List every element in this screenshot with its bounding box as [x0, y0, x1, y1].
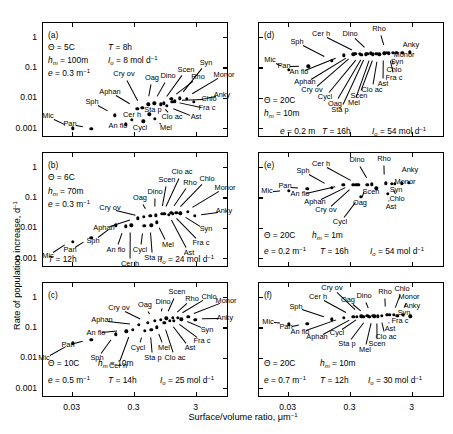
panel-param-text: Θ = 20C [264, 95, 295, 105]
panel-param-text: T = 16h [322, 126, 351, 136]
data-point [149, 214, 152, 217]
point-label: Chlo [389, 195, 404, 202]
x-tick-mark [72, 283, 73, 287]
leader-line [388, 322, 389, 323]
point-label: Oag [133, 194, 147, 201]
y-tick-mark [259, 167, 263, 168]
point-label: Cer h [121, 260, 139, 267]
point-label: Oag [341, 296, 355, 303]
panel-param-text: Θ = 5C [48, 42, 75, 52]
y-tick-mark [259, 358, 263, 359]
point-label: Anky [403, 41, 419, 48]
point-label: Cycl [333, 218, 347, 225]
x-tick-mark [288, 392, 289, 396]
x-tick-mark [72, 132, 73, 136]
data-point [370, 182, 373, 185]
point-label: Mel [158, 344, 170, 351]
data-point [150, 224, 153, 227]
panel-param-text: T = 8h [108, 42, 132, 52]
point-label: Clo ac [162, 113, 183, 120]
point-label: Cycl [330, 329, 344, 336]
y-tick-label: 0.001 [2, 253, 37, 263]
point-label: Syn [391, 58, 404, 65]
y-tick-mark [223, 67, 227, 68]
point-label: Pan [61, 341, 74, 348]
data-point [187, 315, 190, 318]
point-label: Mic [261, 187, 273, 194]
data-point [354, 52, 357, 55]
panel-id-d: (d) [264, 30, 274, 40]
x-tick-mark [412, 392, 413, 396]
point-label: Scen [369, 340, 386, 347]
point-label: Sph [289, 303, 302, 310]
x-tick-label: 0.03 [63, 402, 80, 412]
panel-param-text: Io = 25 mol d−1 [160, 375, 214, 386]
leader-line [159, 123, 161, 125]
data-point [71, 240, 74, 243]
data-point [124, 225, 127, 228]
point-label: Oag [353, 199, 367, 206]
data-point [362, 315, 365, 318]
point-label: Dino [342, 30, 357, 37]
panel-param-text: Θ = 20C [264, 230, 295, 240]
y-tick-label: 0.1 [2, 322, 37, 332]
y-axis-label: Rate of population increase, d−1 [12, 201, 22, 330]
y-tick-mark [223, 228, 227, 229]
y-tick-mark [259, 98, 263, 99]
y-tick-label: 1 [2, 32, 37, 42]
point-label: Sta p [144, 354, 161, 361]
point-label: Pan [63, 120, 76, 127]
point-label: Sta p [331, 106, 348, 113]
point-label: Anky [217, 314, 233, 321]
x-tick-mark [350, 283, 351, 287]
point-label: Anky [402, 166, 418, 173]
panel-id-b: (b) [48, 160, 58, 170]
point-label: Mic [264, 56, 276, 63]
x-tick-mark [196, 283, 197, 287]
data-point [360, 53, 363, 56]
panel-param-text: hm = 10m [264, 108, 300, 119]
point-label: Sta p [338, 340, 355, 347]
y-tick-mark [223, 358, 227, 359]
point-label: Anky [214, 91, 230, 98]
point-label: Ast [386, 203, 397, 210]
leader-line [130, 232, 131, 258]
data-point [384, 182, 387, 185]
point-label: Cry ov [108, 304, 129, 311]
point-label: Sph [86, 237, 99, 244]
point-label: Sph [296, 167, 309, 174]
panel-id-e: (e) [264, 160, 274, 170]
y-tick-label: 0.001 [2, 383, 37, 393]
data-point [387, 52, 390, 55]
x-tick-mark [72, 153, 73, 157]
y-tick-mark [223, 197, 227, 198]
data-point [143, 224, 146, 227]
data-point [114, 333, 117, 336]
panel-id-f: (f) [264, 290, 272, 300]
data-point [90, 338, 93, 341]
point-label: Rho [372, 25, 386, 32]
data-point [173, 100, 176, 103]
point-label: Monor [395, 178, 416, 185]
point-label: Mel [162, 241, 174, 248]
point-label: Oag [138, 301, 152, 308]
panel-param-text: T = 14h [108, 375, 137, 385]
x-tick-mark [196, 392, 197, 396]
point-label: Ast [185, 344, 196, 351]
point-label: Sta p [144, 106, 161, 113]
leader-line [291, 187, 298, 189]
point-label: Syn [398, 309, 411, 316]
point-label: Rho [378, 288, 392, 295]
y-tick-mark [259, 297, 263, 298]
data-point [162, 321, 165, 324]
panel-param-text: hm = 70m [48, 186, 84, 197]
panel-param-text: T = 12h [48, 254, 77, 264]
data-point [153, 319, 156, 322]
point-label: Anky [216, 207, 232, 214]
data-point [150, 328, 153, 331]
data-point [342, 316, 345, 319]
data-point [179, 212, 182, 215]
point-label: Sph [85, 98, 98, 105]
panel-param-text: Io = 54 mol d−1 [370, 246, 424, 257]
x-tick-label: 3 [409, 402, 414, 412]
